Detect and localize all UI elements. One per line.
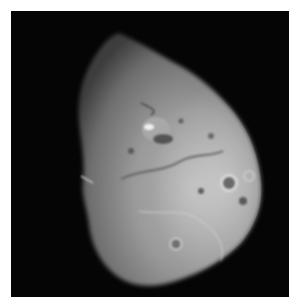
bright-spot (144, 124, 154, 130)
comet-nucleus-illustration (11, 11, 289, 297)
rim-light (79, 33, 262, 286)
comet-photo (11, 11, 289, 297)
crater (239, 197, 247, 205)
